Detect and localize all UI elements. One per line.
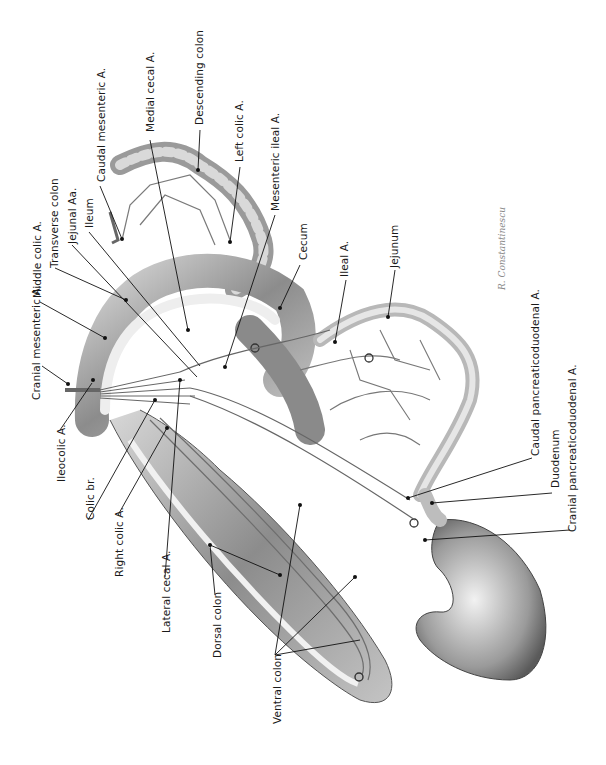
- label-descending-colon: Descending colon: [193, 30, 205, 125]
- label-jejunum: Jejunum: [388, 225, 400, 268]
- label-ileocolic-artery: Ileocolic A.: [55, 424, 67, 482]
- label-left-colic-artery: Left colic A.: [233, 100, 245, 162]
- intestine-illustration: [0, 0, 606, 765]
- label-cecum: Cecum: [297, 223, 309, 260]
- label-caudal-mesenteric-artery: Caudal mesenteric A.: [95, 68, 107, 182]
- label-colic-branch: Colic br.: [84, 477, 96, 520]
- label-medial-cecal-artery: Medial cecal A.: [144, 52, 156, 132]
- label-cranial-pancreaticoduodenal-artery: Cranial pancreaticoduodenal A.: [566, 364, 578, 532]
- label-transverse-colon: Transverse colon: [48, 178, 60, 268]
- label-right-colic-artery: Right colic A.: [113, 507, 125, 577]
- artist-signature: R. Constantinescu: [497, 207, 507, 290]
- label-dorsal-colon: Dorsal colon: [211, 592, 223, 658]
- label-ileal-artery: Ileal A.: [338, 241, 350, 277]
- label-ileum: Ileum: [83, 198, 95, 228]
- label-cranial-mesenteric-artery: Cranial mesenteric A.: [30, 285, 42, 400]
- label-jejunal-arteries: Jejunal Aa.: [66, 187, 78, 244]
- cecum-and-transverse-colon: [92, 271, 310, 430]
- label-duodenum: Duodenum: [549, 429, 561, 488]
- label-middle-colic-artery: Middle colic A.: [31, 221, 43, 298]
- label-lateral-cecal-artery: Lateral cecal A.: [160, 551, 172, 634]
- label-caudal-pancreaticoduodenal-artery: Caudal pancreaticoduodenal A.: [529, 289, 541, 456]
- label-mesenteric-ileal-artery: Mesenteric ileal A.: [269, 113, 281, 211]
- label-ventral-colon: Ventral colon: [271, 654, 283, 724]
- stomach-and-duodenum: [410, 495, 546, 680]
- anatomical-figure: Cranial mesenteric A. Middle colic A. Tr…: [0, 0, 606, 765]
